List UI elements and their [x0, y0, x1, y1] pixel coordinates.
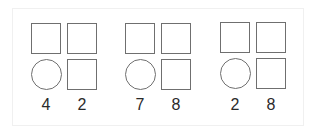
square-top-left	[125, 23, 155, 54]
shape-group-3: 2 8	[220, 0, 310, 132]
square-top-right	[256, 22, 286, 53]
number-left: 4	[31, 96, 61, 114]
number-right: 2	[67, 96, 97, 114]
circle-bottom-left	[220, 58, 251, 89]
square-top-left	[31, 23, 61, 54]
shape-group-2: 7 8	[125, 0, 215, 132]
circle-bottom-left	[31, 59, 62, 90]
number-right: 8	[256, 96, 286, 114]
square-bottom-right	[161, 59, 191, 90]
square-top-right	[67, 23, 97, 54]
number-right: 8	[161, 96, 191, 114]
number-left: 7	[125, 96, 155, 114]
square-top-left	[220, 22, 250, 53]
circle-bottom-left	[125, 59, 156, 90]
square-bottom-right	[256, 58, 286, 89]
square-top-right	[161, 23, 191, 54]
number-left: 2	[220, 96, 250, 114]
square-bottom-right	[67, 59, 97, 90]
shape-group-1: 4 2	[31, 0, 121, 132]
